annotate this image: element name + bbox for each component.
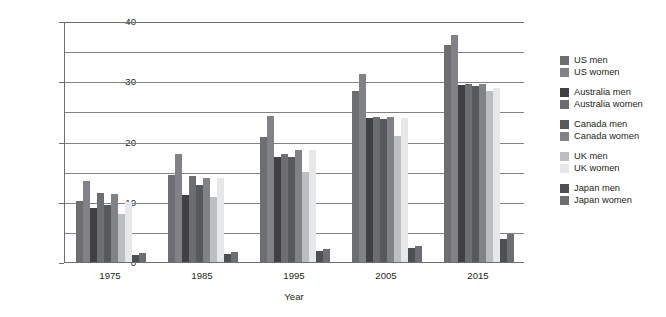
x-axis-tick-label: 1975 bbox=[70, 270, 150, 281]
bar bbox=[323, 249, 329, 262]
x-axis-title: Year bbox=[64, 291, 524, 302]
bar bbox=[196, 185, 202, 262]
bar bbox=[125, 202, 131, 262]
legend-label: UK women bbox=[574, 163, 619, 175]
bar bbox=[465, 84, 471, 262]
bar bbox=[415, 246, 421, 262]
bar bbox=[90, 208, 96, 262]
legend-item[interactable]: UK men bbox=[560, 151, 643, 163]
legend-item[interactable]: Canada men bbox=[560, 119, 643, 131]
bar bbox=[401, 118, 407, 262]
legend-label: US women bbox=[574, 67, 619, 79]
bar bbox=[352, 91, 358, 262]
bar bbox=[118, 214, 124, 262]
bar bbox=[175, 154, 181, 262]
bar bbox=[359, 74, 365, 262]
legend-item[interactable]: US men bbox=[560, 55, 643, 67]
bar bbox=[316, 251, 322, 262]
legend-label: Australia men bbox=[574, 87, 631, 99]
bar bbox=[267, 116, 273, 262]
bar bbox=[451, 35, 457, 262]
legend-item[interactable]: Australia women bbox=[560, 99, 643, 111]
legend-item[interactable]: Japan men bbox=[560, 183, 643, 195]
legend-group: Australia menAustralia women bbox=[560, 87, 643, 110]
legend-item[interactable]: Japan women bbox=[560, 195, 643, 207]
bar bbox=[479, 84, 485, 262]
x-axis-tick-label: 2005 bbox=[346, 270, 426, 281]
legend-swatch-icon bbox=[560, 196, 569, 205]
bar bbox=[210, 197, 216, 262]
bar bbox=[302, 172, 308, 262]
bar bbox=[444, 45, 450, 262]
legend-item[interactable]: Australia men bbox=[560, 87, 643, 99]
bar bbox=[274, 157, 280, 262]
bar-groups bbox=[65, 22, 524, 262]
chart-legend: US menUS womenAustralia menAustralia wom… bbox=[560, 55, 643, 215]
bar bbox=[472, 86, 478, 262]
bar bbox=[203, 178, 209, 262]
legend-swatch-icon bbox=[560, 132, 569, 141]
x-axis-tick-label: 1995 bbox=[254, 270, 334, 281]
bar bbox=[394, 136, 400, 262]
legend-swatch-icon bbox=[560, 100, 569, 109]
legend-swatch-icon bbox=[560, 184, 569, 193]
legend-label: Canada women bbox=[574, 131, 639, 143]
bar bbox=[231, 252, 237, 262]
legend-swatch-icon bbox=[560, 68, 569, 77]
bar bbox=[486, 91, 492, 262]
bar bbox=[139, 253, 145, 262]
bar bbox=[217, 178, 223, 262]
legend-group: Japan menJapan women bbox=[560, 183, 643, 206]
bar-group-1985 bbox=[168, 22, 237, 262]
bar-group-2015 bbox=[444, 22, 513, 262]
legend-group: UK menUK women bbox=[560, 151, 643, 174]
bar bbox=[493, 88, 499, 262]
legend-swatch-icon bbox=[560, 120, 569, 129]
bar bbox=[132, 255, 138, 262]
bar bbox=[168, 175, 174, 262]
bar bbox=[458, 85, 464, 262]
bar bbox=[408, 248, 414, 262]
legend-group: US menUS women bbox=[560, 55, 643, 78]
legend-label: Canada men bbox=[574, 119, 627, 131]
legend-label: Japan women bbox=[574, 195, 632, 207]
legend-swatch-icon bbox=[560, 164, 569, 173]
bar bbox=[182, 195, 188, 262]
x-axis-tick-label: 1985 bbox=[162, 270, 242, 281]
bar bbox=[373, 117, 379, 262]
bar bbox=[260, 137, 266, 262]
legend-label: Japan men bbox=[574, 183, 620, 195]
legend-swatch-icon bbox=[560, 88, 569, 97]
legend-swatch-icon bbox=[560, 152, 569, 161]
bar bbox=[387, 117, 393, 262]
legend-group: Canada menCanada women bbox=[560, 119, 643, 142]
bar bbox=[281, 154, 287, 262]
bar bbox=[380, 119, 386, 262]
bar-group-2005 bbox=[352, 22, 421, 262]
bar bbox=[104, 205, 110, 262]
bar bbox=[97, 193, 103, 262]
bar bbox=[288, 157, 294, 262]
plot-area bbox=[64, 22, 524, 263]
bar bbox=[295, 150, 301, 262]
bar-group-1975 bbox=[76, 22, 145, 262]
legend-swatch-icon bbox=[560, 56, 569, 65]
y-axis-tick-mark bbox=[59, 263, 64, 264]
bar-group-1995 bbox=[260, 22, 329, 262]
legend-label: Australia women bbox=[574, 99, 643, 111]
legend-item[interactable]: Canada women bbox=[560, 131, 643, 143]
legend-label: US men bbox=[574, 55, 608, 67]
legend-item[interactable]: US women bbox=[560, 67, 643, 79]
bar bbox=[111, 194, 117, 262]
bar bbox=[500, 239, 506, 262]
bar bbox=[76, 201, 82, 262]
legend-label: UK men bbox=[574, 151, 608, 163]
bar bbox=[224, 254, 230, 262]
bar bbox=[309, 150, 315, 262]
chart-figure: source: https://ncdrisc.org/data-downloa… bbox=[0, 0, 666, 317]
bar bbox=[83, 181, 89, 262]
bar bbox=[507, 234, 513, 262]
x-axis-tick-label: 2015 bbox=[438, 270, 518, 281]
bar bbox=[189, 176, 195, 262]
legend-item[interactable]: UK women bbox=[560, 163, 643, 175]
